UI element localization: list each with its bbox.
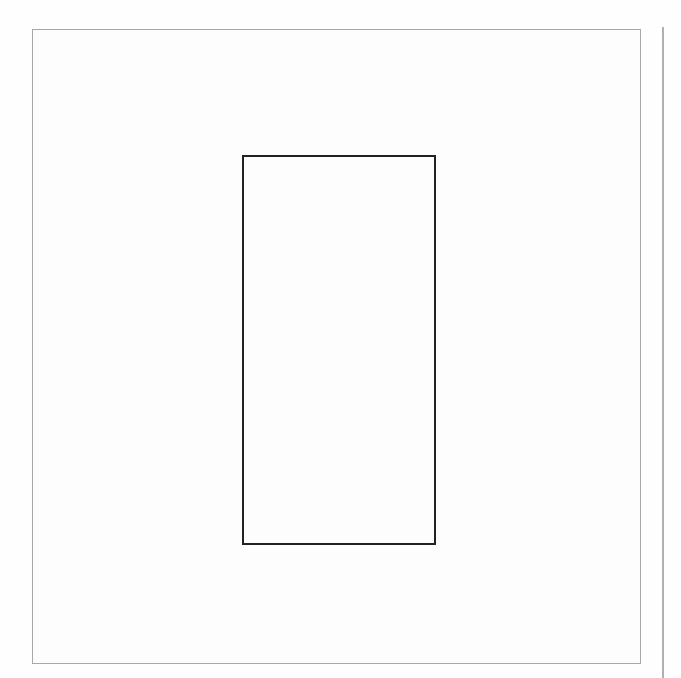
inner-rectangle (242, 155, 436, 545)
page-canvas (0, 0, 681, 678)
right-margin-line (662, 27, 664, 678)
